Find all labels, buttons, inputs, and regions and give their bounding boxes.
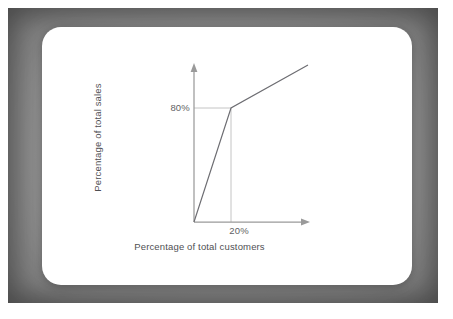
y-axis-arrow-icon	[191, 63, 198, 72]
pareto-chart: 80% 20% Percentage of total customers Pe…	[42, 27, 412, 285]
page-canvas: 80% 20% Percentage of total customers Pe…	[0, 0, 453, 319]
y-tick-label-80: 80%	[164, 102, 190, 113]
y-axis-title: Percentage of total sales	[92, 33, 103, 243]
figure-card: 80% 20% Percentage of total customers Pe…	[42, 27, 412, 285]
x-axis-title: Percentage of total customers	[77, 241, 322, 252]
pareto-curve	[194, 65, 308, 222]
x-axis-arrow-icon	[301, 219, 310, 226]
x-tick-label-20: 20%	[222, 225, 256, 236]
